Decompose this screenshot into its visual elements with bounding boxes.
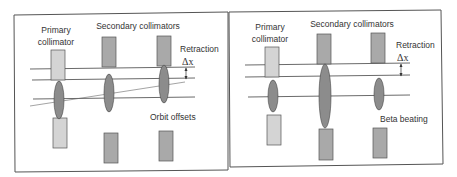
beam-envelope-1 xyxy=(54,81,64,119)
primary-label-line1: Primary xyxy=(255,22,285,32)
secondary-collimator-1-bottom-jaw xyxy=(104,133,118,163)
primary-label-line1: Primary xyxy=(41,25,71,35)
secondary-label: Secondary collimators xyxy=(96,21,180,31)
delta-x-label: Δx xyxy=(182,56,193,67)
primary-collimator-bottom-jaw xyxy=(53,118,67,148)
panel-orbit-offsets: Primary collimator Secondary collimators… xyxy=(14,12,228,172)
delta-x-label: Δx xyxy=(397,52,408,63)
secondary-collimator-1-top-jaw xyxy=(102,37,116,67)
secondary-collimator-2-top-jaw xyxy=(371,33,385,63)
secondary-collimator-1-top-jaw xyxy=(317,34,331,64)
retraction-label: Retraction xyxy=(180,44,219,54)
collimation-diagram: Primary collimator Secondary collimators… xyxy=(0,0,457,177)
beam-envelope-1 xyxy=(268,80,278,112)
beta-beating-label: Beta beating xyxy=(380,114,428,124)
secondary-collimator-1-bottom-jaw xyxy=(319,129,333,160)
panel-beta-beating: Primary collimator Secondary collimators… xyxy=(229,10,443,167)
beam-envelope-2 xyxy=(104,74,114,112)
beam-envelope-3 xyxy=(374,78,384,110)
primary-collimator-top-jaw xyxy=(265,47,279,77)
beam-envelope-2 xyxy=(319,64,331,128)
primary-collimator-top-jaw xyxy=(51,50,65,80)
secondary-collimator-2-bottom-jaw xyxy=(373,128,387,158)
primary-label-line2: collimator xyxy=(252,34,289,44)
retraction-label: Retraction xyxy=(396,40,435,50)
secondary-collimator-2-bottom-jaw xyxy=(159,131,173,161)
secondary-collimator-2-top-jaw xyxy=(157,36,171,66)
primary-collimator-bottom-jaw xyxy=(267,115,281,145)
beam-envelope-3 xyxy=(159,65,169,103)
primary-label-line2: collimator xyxy=(38,37,75,47)
secondary-label: Secondary collimators xyxy=(310,19,394,29)
orbit-offsets-label: Orbit offsets xyxy=(150,112,196,122)
